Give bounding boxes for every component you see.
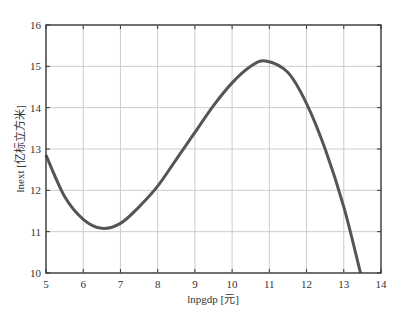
- x-tick-label: 5: [43, 278, 49, 290]
- x-tick-label: 11: [264, 278, 275, 290]
- x-tick-label: 13: [338, 278, 350, 290]
- x-tick-label: 9: [192, 278, 198, 290]
- x-tick-label: 14: [376, 278, 388, 290]
- grid-lines: [46, 25, 381, 273]
- y-tick-labels: 10111213141516: [30, 19, 42, 279]
- data-line: [46, 61, 361, 273]
- x-axis-label: lnpgdp [元]: [187, 293, 239, 305]
- y-tick-label: 14: [30, 102, 42, 114]
- x-tick-label: 10: [227, 278, 239, 290]
- y-tick-label: 13: [30, 143, 42, 155]
- y-axis-label: lnext [亿标立方米]: [13, 105, 26, 192]
- x-tick-label: 6: [80, 278, 86, 290]
- y-tick-label: 11: [30, 226, 41, 238]
- x-tick-labels: 567891011121314: [43, 278, 387, 290]
- y-tick-label: 16: [30, 19, 42, 31]
- x-tick-label: 12: [301, 278, 312, 290]
- x-tick-label: 7: [118, 278, 124, 290]
- y-tick-label: 12: [30, 184, 41, 196]
- chart: 567891011121314 10111213141516 lnpgdp [元…: [0, 0, 401, 324]
- y-tick-label: 15: [30, 60, 42, 72]
- y-tick-label: 10: [30, 267, 42, 279]
- x-tick-label: 8: [155, 278, 161, 290]
